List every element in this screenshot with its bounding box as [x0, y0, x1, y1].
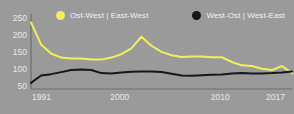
series-line-east-west	[31, 22, 292, 73]
plot-area	[0, 0, 294, 114]
line-chart: Ost-West | East-West West-Ost | West-Eas…	[0, 0, 294, 114]
series-line-west-east	[31, 69, 292, 83]
